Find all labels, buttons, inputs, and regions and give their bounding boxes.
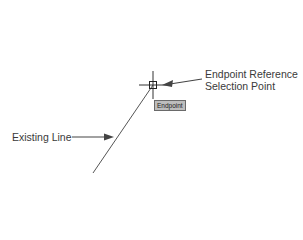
endpoint-reference-line2: Selection Point (205, 80, 298, 92)
existing-line-label: Existing Line (12, 131, 72, 143)
endpoint-reference-label: Endpoint Reference Selection Point (205, 68, 298, 92)
endpoint-arrow-icon (162, 79, 202, 87)
endpoint-tooltip: Endpoint (154, 100, 186, 111)
existing-line-arrow-icon (72, 134, 114, 141)
endpoint-reference-line1: Endpoint Reference (205, 68, 298, 80)
existing-line (93, 85, 153, 173)
